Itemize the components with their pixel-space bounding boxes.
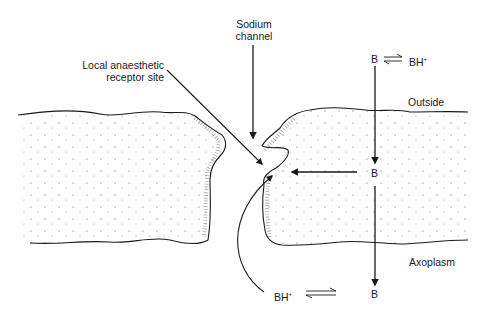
species-top-acid: BH+ bbox=[409, 53, 427, 68]
label-outside: Outside bbox=[408, 96, 444, 108]
species-top-base: B bbox=[371, 53, 378, 65]
equilibrium-arrows-top bbox=[384, 54, 402, 64]
label-sodium-channel: Sodium channel bbox=[233, 18, 275, 42]
equilibrium-arrows-bottom bbox=[306, 288, 336, 298]
species-middle-base: B bbox=[371, 167, 378, 179]
label-receptor-line1: Local anaesthetic bbox=[70, 59, 164, 71]
membrane-left bbox=[18, 111, 226, 244]
species-bottom-acid-charge: + bbox=[289, 291, 293, 297]
membrane-diagram bbox=[0, 0, 478, 319]
species-bottom-base: B bbox=[371, 288, 378, 300]
species-top-acid-formula: BH bbox=[409, 56, 424, 68]
label-receptor-line2: receptor site bbox=[70, 71, 164, 83]
species-bottom-acid: BH+ bbox=[274, 288, 292, 303]
species-top-acid-charge: + bbox=[424, 56, 428, 62]
label-sodium-channel-line2: channel bbox=[233, 30, 275, 42]
label-axoplasm: Axoplasm bbox=[409, 256, 455, 268]
species-bottom-acid-formula: BH bbox=[274, 291, 289, 303]
label-sodium-channel-line1: Sodium bbox=[233, 18, 275, 30]
label-receptor-site: Local anaesthetic receptor site bbox=[70, 59, 164, 83]
membrane-right bbox=[262, 108, 468, 246]
